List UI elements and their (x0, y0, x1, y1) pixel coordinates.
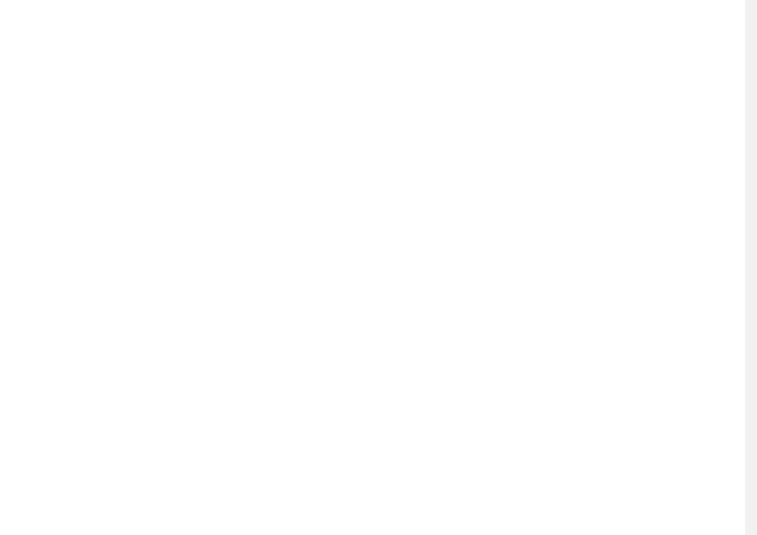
magnetic-field-orientation-figure (0, 0, 757, 535)
page-edge-strip (745, 0, 757, 535)
figure-canvas (0, 0, 757, 535)
